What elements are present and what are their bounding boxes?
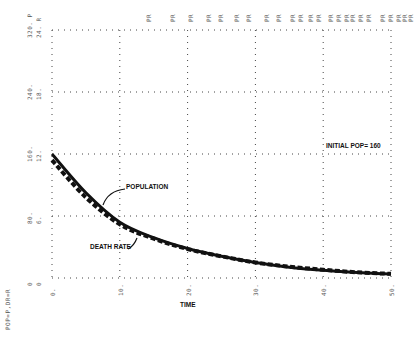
top-marker: PR bbox=[263, 14, 270, 22]
top-marker: PR bbox=[315, 14, 322, 22]
top-marker: PR bbox=[169, 14, 176, 22]
y-tick-population: 0 bbox=[26, 282, 33, 286]
top-marker: PR bbox=[327, 14, 334, 22]
x-axis-title: TIME bbox=[180, 301, 196, 308]
x-tick: 30. bbox=[252, 284, 259, 296]
annotation-initial-pop: INITIAL POP= 160 bbox=[326, 142, 381, 149]
top-marker: PR bbox=[217, 14, 224, 22]
y-tick-population: 240. bbox=[26, 84, 33, 100]
top-marker: PR bbox=[233, 14, 240, 22]
y-tick-population: 80. bbox=[26, 212, 33, 224]
population-curve bbox=[52, 154, 391, 274]
top-marker: PR bbox=[289, 14, 296, 22]
y-tick-death-rate: 18. bbox=[35, 88, 42, 100]
top-marker: PR bbox=[245, 14, 252, 22]
curves bbox=[52, 154, 391, 274]
top-marker: PR bbox=[307, 14, 314, 22]
annotation-population: POPULATION bbox=[126, 183, 168, 190]
top-marker: PR bbox=[187, 14, 194, 22]
annotation-death-rate: DEATH RATE bbox=[90, 243, 131, 250]
y-axis-title: POP=P,DR=R bbox=[4, 289, 11, 330]
y-tick-population: 320. P bbox=[26, 13, 33, 38]
y-tick-death-rate: 12. bbox=[35, 150, 42, 162]
chart-canvas bbox=[0, 0, 414, 337]
top-marker: PR bbox=[297, 14, 304, 22]
top-marker: PR bbox=[357, 14, 364, 22]
top-marker: PR bbox=[275, 14, 282, 22]
x-tick: 10. bbox=[117, 284, 124, 296]
top-marker: PR bbox=[407, 14, 414, 22]
top-marker: PR bbox=[349, 14, 356, 22]
top-marker: PR bbox=[379, 14, 386, 22]
y-tick-death-rate: 6. bbox=[35, 216, 42, 224]
y-tick-death-rate: 0 bbox=[35, 282, 42, 286]
x-tick: 40. bbox=[320, 284, 327, 296]
top-marker: PR bbox=[365, 14, 372, 22]
x-tick: 0. bbox=[49, 288, 56, 296]
x-tick: 50. bbox=[388, 284, 395, 296]
top-marker: PR bbox=[205, 14, 212, 22]
top-marker: PR bbox=[387, 14, 394, 22]
x-tick: 20. bbox=[185, 284, 192, 296]
y-tick-population: 160. bbox=[26, 146, 33, 162]
grid bbox=[52, 30, 391, 278]
top-marker: PR bbox=[145, 14, 152, 22]
y-tick-death-rate: 24. R bbox=[35, 17, 42, 38]
top-marker: PR bbox=[335, 14, 342, 22]
